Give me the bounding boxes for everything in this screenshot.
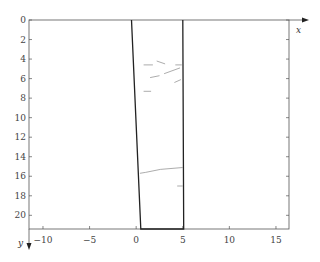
fracture-line [174, 80, 181, 83]
x-axis-label: x [296, 25, 301, 35]
y-axis-arrow-icon [27, 229, 32, 250]
x-axis-arrow-icon [289, 18, 309, 23]
x-tick-label: 15 [270, 235, 282, 245]
y-tick-label: 6 [20, 74, 26, 84]
data-series [132, 20, 184, 229]
fracture-line [164, 68, 180, 74]
y-tick-label: 4 [20, 54, 26, 64]
y-tick-label: 14 [15, 152, 27, 162]
plot-frame [29, 20, 289, 229]
y-axis-ticks: 02468101214161820 [15, 15, 289, 220]
x-tick-label: 0 [133, 235, 139, 245]
y-tick-label: 2 [20, 35, 26, 45]
y-tick-label: 16 [15, 171, 27, 181]
y-tick-label: 10 [15, 113, 27, 123]
x-tick-label: −5 [83, 235, 97, 245]
y-tick-label: 0 [20, 15, 26, 25]
plot-area-border [29, 20, 289, 229]
y-tick-label: 20 [15, 210, 27, 220]
x-tick-label: 10 [224, 235, 236, 245]
x-tick-label: −10 [33, 235, 52, 245]
fracture-line [140, 168, 183, 174]
fracture-line [150, 76, 159, 78]
y-axis-label: y [17, 238, 24, 248]
x-tick-label: 5 [180, 235, 186, 245]
y-tick-label: 18 [15, 191, 27, 201]
y-tick-label: 8 [20, 93, 26, 103]
y-tick-label: 12 [15, 132, 26, 142]
chart: 02468101214161820 −10−5051015 x y [0, 0, 320, 262]
fracture-line [157, 61, 165, 64]
boundary-line [132, 20, 184, 229]
